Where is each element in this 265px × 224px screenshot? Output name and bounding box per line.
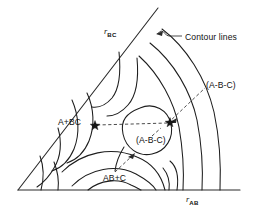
- contour-central-oval: [122, 106, 171, 155]
- label-abc-saddle: (A-B-C): [136, 136, 166, 145]
- star-marker-a-plus-bc: [90, 121, 100, 130]
- leader-abc-outer: [168, 88, 205, 123]
- star-marker-abc-saddle: [165, 118, 175, 127]
- axis-label-ab: rAB: [186, 196, 199, 206]
- label-contour-lines: Contour lines: [185, 33, 237, 42]
- label-abc-outer: (A-B-C): [206, 81, 236, 90]
- axis-label-ab-subscript: AB: [189, 199, 198, 206]
- contour-upper-channel-right: [107, 58, 138, 116]
- axis-label-bc-subscript: BC: [107, 31, 116, 38]
- contour-diagram-figure: Contour lines (A-B-C) A+BC (A-B-C) AB+C …: [0, 0, 265, 224]
- leader-horizontal-reaction-path: [97, 123, 168, 125]
- contour-upper-channel-left: [92, 52, 120, 107]
- label-ab-plus-c: AB+C: [103, 174, 126, 183]
- annotation-leaders: [97, 31, 205, 172]
- contour-outer-right-1: [162, 29, 220, 190]
- axis-line-bc: [18, 8, 158, 190]
- contour-left-wall-2: [52, 100, 78, 171]
- contour-left-wall-1: [67, 93, 93, 163]
- contour-line-group: [37, 29, 220, 190]
- axis-label-bc: rBC: [104, 28, 117, 38]
- contour-bottom-right-lobe: [170, 161, 178, 190]
- label-a-plus-bc: A+BC: [58, 118, 81, 127]
